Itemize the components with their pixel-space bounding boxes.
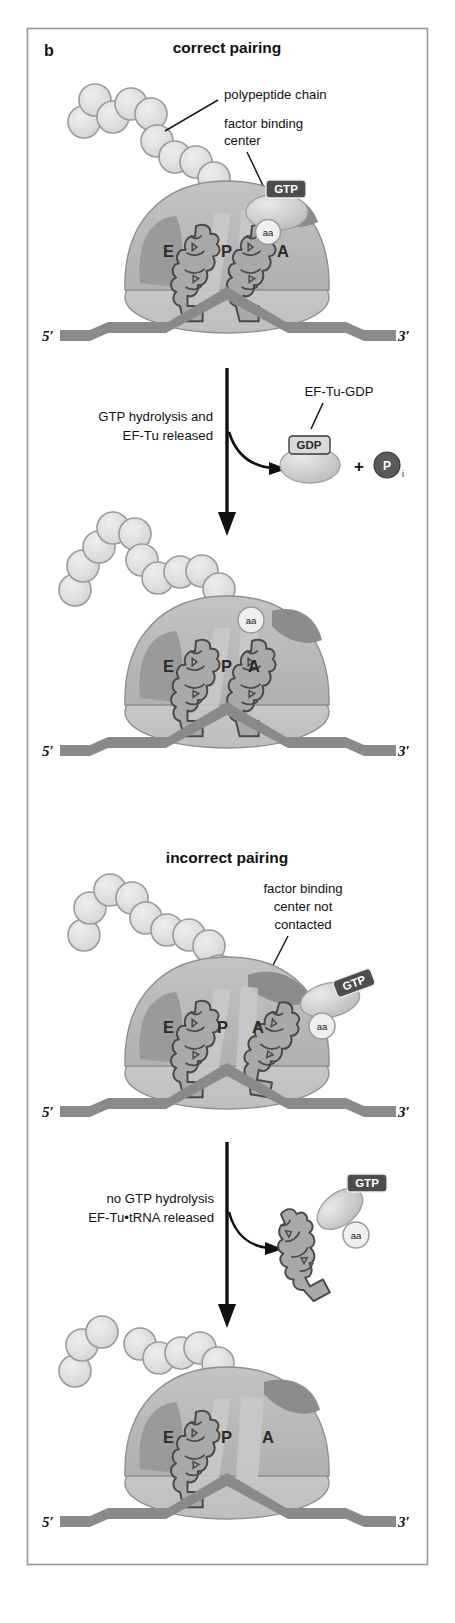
aa-text-released: aa [351,1230,362,1241]
gdp-badge: GDP [289,436,330,454]
label-step2-line2: EF-Tu•tRNA released [88,1210,214,1225]
site-label-P-panel2: P [221,657,232,675]
site-label-E-panel3: E [163,1018,174,1036]
mrna-5prime-panel3: 5′ [42,1104,54,1120]
panel-letter: b [44,42,54,59]
gtp-badge-text-released: GTP [355,1177,379,1189]
site-label-E-panel4: E [163,1428,174,1446]
mrna-3prime-panel1: 3′ [397,328,410,344]
aa-text-panel1: aa [263,227,274,238]
gtp-badge-text-panel1: GTP [274,183,298,195]
mrna-3prime-panel2: 3′ [397,743,410,759]
label-fbc-not-contacted-line2: center not [274,899,333,914]
label-step1-line2: EF-Tu released [123,428,213,443]
site-label-A-panel3: A [252,1018,264,1036]
label-step2-line1: no GTP hydrolysis [107,1191,215,1206]
gdp-badge-text: GDP [297,439,322,451]
aa-circle-released: aa [343,1222,369,1248]
mrna-3prime-panel4: 3′ [397,1514,410,1530]
label-step1-line1: GTP hydrolysis and [98,409,213,424]
figure-root: b correct pairing polypeptide chain fact… [0,0,455,1623]
site-label-P-panel1: P [221,242,232,260]
aa-circle-panel3: aa [309,1013,335,1039]
mrna-3prime-panel3: 3′ [397,1104,410,1120]
heading-correct-pairing: correct pairing [173,39,282,56]
site-label-E-panel2: E [163,657,174,675]
label-ef-tu-gdp: EF-Tu-GDP [304,384,373,399]
gtp-badge-released: GTP [347,1174,387,1192]
mrna-5prime-panel4: 5′ [42,1514,54,1530]
pi-letter: P [383,459,391,473]
site-label-E-panel1: E [163,242,174,260]
mrna-5prime-panel1: 5′ [42,328,54,344]
site-label-P-panel3: P [217,1018,228,1036]
site-label-A-panel1: A [277,242,289,260]
aa-circle-panel1: aa [256,220,281,245]
gtp-badge-panel1: GTP [266,180,306,198]
pi-subscript: i [402,469,404,479]
aa-circle-panel2: aa [238,607,264,633]
label-factor-binding-center-line1: factor binding [224,116,303,131]
label-polypeptide-chain: polypeptide chain [224,87,327,102]
label-factor-binding-center-line2: center [224,133,261,148]
site-label-A-panel2: A [248,657,260,675]
mrna-5prime-panel2: 5′ [42,743,54,759]
site-label-P-panel4: P [221,1428,232,1446]
heading-incorrect-pairing: incorrect pairing [166,849,288,866]
label-fbc-not-contacted-line1: factor binding [263,881,342,896]
aa-text-panel2: aa [246,615,257,626]
aa-text-panel3: aa [317,1021,328,1032]
label-fbc-not-contacted-line3: contacted [274,917,331,932]
site-label-A-panel4: A [262,1428,274,1446]
plus-sign: + [354,457,364,476]
